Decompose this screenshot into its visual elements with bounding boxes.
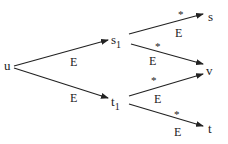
node-v: v bbox=[206, 63, 213, 78]
edge-s1-v bbox=[131, 44, 203, 64]
node-u: u bbox=[4, 58, 11, 73]
edge-u-s1 bbox=[14, 40, 108, 66]
edge-t1-t bbox=[129, 104, 203, 126]
edge-label-u-s1: E bbox=[70, 55, 77, 69]
edge-label-t1-v: E bbox=[154, 92, 161, 106]
star-s1-s: * bbox=[178, 8, 184, 20]
node-s: s bbox=[208, 9, 213, 24]
edge-label-s1-s: E bbox=[175, 26, 182, 40]
star-t1-t: * bbox=[174, 108, 180, 120]
node-s1: s1 bbox=[111, 32, 121, 50]
node-t1: t1 bbox=[111, 94, 120, 112]
star-t1-v: * bbox=[151, 74, 157, 86]
node-t: t bbox=[208, 121, 212, 136]
graph-diagram: u s1 t1 s v t E E E E E E * * * * bbox=[0, 0, 228, 144]
edge-label-u-t1: E bbox=[70, 91, 77, 105]
edge-label-t1-t: E bbox=[174, 125, 181, 139]
star-s1-v: * bbox=[155, 40, 161, 52]
edge-t1-v bbox=[129, 74, 203, 96]
edge-u-t1 bbox=[14, 68, 108, 98]
edge-label-s1-v: E bbox=[149, 54, 156, 68]
edge-s1-s bbox=[129, 14, 203, 34]
